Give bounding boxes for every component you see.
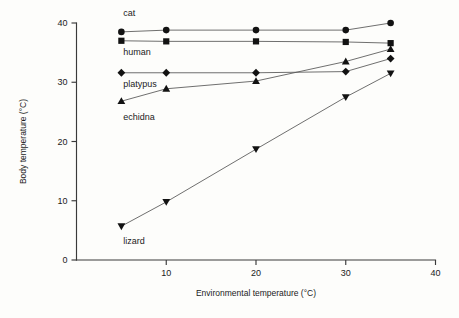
data-point-cat — [342, 27, 349, 34]
y-axis-tick-labels: 010203040 — [57, 18, 67, 265]
data-point-lizard — [342, 94, 350, 101]
data-point-lizard — [162, 199, 170, 206]
series-human — [118, 38, 393, 47]
data-point-platypus — [117, 69, 125, 77]
series-annotation-echidna: echidna — [123, 112, 155, 122]
data-point-platypus — [387, 55, 395, 63]
x-axis-title: Environmental temperature (°C) — [196, 288, 316, 298]
y-tick-label: 40 — [57, 18, 67, 28]
series-annotations: cathumanplatypusechidnalizard — [123, 8, 157, 246]
data-point-cat — [387, 20, 394, 27]
body-temperature-chart: 010203040 10203040 Body temperature (°C)… — [0, 0, 459, 318]
data-point-platypus — [252, 69, 260, 77]
axes-group — [72, 23, 436, 265]
data-point-cat — [118, 29, 125, 36]
x-tick-label: 40 — [430, 268, 440, 278]
series-cat — [118, 20, 394, 35]
x-tick-label: 10 — [161, 268, 171, 278]
data-point-lizard — [387, 70, 395, 77]
y-axis-ticks — [72, 23, 77, 260]
y-tick-label: 0 — [62, 255, 67, 265]
y-tick-label: 20 — [57, 137, 67, 147]
data-point-cat — [253, 27, 260, 34]
x-tick-label: 30 — [341, 268, 351, 278]
series-platypus — [117, 55, 394, 77]
y-axis-title: Body temperature (°C) — [18, 99, 28, 184]
data-point-human — [253, 38, 259, 44]
series-annotation-platypus: platypus — [123, 79, 157, 89]
x-axis-ticks — [166, 260, 435, 265]
y-tick-label: 10 — [57, 196, 67, 206]
series-annotation-lizard: lizard — [123, 236, 145, 246]
data-point-platypus — [342, 68, 350, 76]
series-lizard — [117, 70, 394, 230]
chart-canvas: 010203040 10203040 Body temperature (°C)… — [0, 0, 459, 318]
x-tick-label: 20 — [251, 268, 261, 278]
series-annotation-human: human — [123, 47, 151, 57]
data-point-platypus — [162, 69, 170, 77]
data-point-cat — [163, 27, 170, 34]
series-annotation-cat: cat — [123, 8, 136, 18]
y-tick-label: 30 — [57, 77, 67, 87]
series-group — [117, 20, 394, 230]
data-point-lizard — [252, 146, 260, 153]
x-axis-tick-labels: 10203040 — [161, 268, 440, 278]
data-point-human — [163, 38, 169, 44]
data-point-lizard — [117, 223, 125, 230]
data-point-human — [118, 38, 124, 44]
data-point-human — [343, 39, 349, 45]
